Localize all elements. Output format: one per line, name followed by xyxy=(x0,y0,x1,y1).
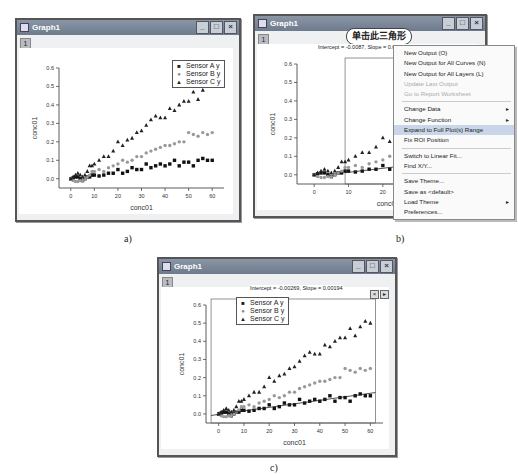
menu-item[interactable]: New Output for All Curves (N) xyxy=(394,58,514,68)
plot-area[interactable]: 0.00.10.20.30.40.50.60102030405060conc01… xyxy=(19,48,233,214)
svg-text:0.1: 0.1 xyxy=(284,153,292,159)
svg-text:0.3: 0.3 xyxy=(193,356,201,362)
caption-c: c) xyxy=(270,462,278,473)
window-titlebar[interactable]: Graph1 _ □ × xyxy=(159,259,395,274)
submenu-arrow-icon: ▸ xyxy=(506,104,509,114)
svg-text:60: 60 xyxy=(209,193,215,199)
window-titlebar[interactable]: Graph1 _ □ × xyxy=(17,20,239,35)
square-icon: ■ xyxy=(240,299,246,307)
caption-a: a) xyxy=(124,233,132,244)
menu-separator xyxy=(402,101,511,102)
legend-label: Sensor C y xyxy=(250,315,285,323)
menu-item[interactable]: Save as <default> xyxy=(394,187,514,197)
menu-item[interactable]: Fix ROI Position xyxy=(394,135,514,145)
svg-text:50: 50 xyxy=(186,193,192,199)
legend[interactable]: ■Sensor A y ●Sensor B y ▲Sensor C y xyxy=(172,60,225,88)
svg-text:conc01: conc01 xyxy=(269,113,276,136)
legend-item: ▲Sensor C y xyxy=(240,315,285,323)
svg-text:10: 10 xyxy=(345,189,351,195)
svg-text:0.5: 0.5 xyxy=(284,79,292,85)
triangle-icon: ▲ xyxy=(240,315,246,323)
roi-menu-triangle-button[interactable]: ▸ xyxy=(380,290,389,299)
roi-fit-label: Intercept = -0.00269, Slope = 0.00194 xyxy=(250,285,343,291)
graph-window-a: Graph1 _ □ × 1 0.00.10.20.30.40.50.60102… xyxy=(15,18,241,222)
circle-icon: ● xyxy=(176,70,182,78)
menu-item[interactable]: Preferences... xyxy=(394,207,514,217)
legend-label: Sensor B y xyxy=(250,307,284,315)
menu-item: Update Last Output xyxy=(394,79,514,89)
svg-text:0.6: 0.6 xyxy=(193,302,201,308)
svg-text:30: 30 xyxy=(291,428,297,434)
svg-text:conc01: conc01 xyxy=(178,353,185,376)
close-button[interactable]: × xyxy=(224,21,237,34)
svg-text:0.2: 0.2 xyxy=(193,375,201,381)
callout-bubble: 单击此三角形 xyxy=(346,28,412,45)
menu-item[interactable]: Save Theme... xyxy=(394,176,514,186)
menu-item[interactable]: New Output for All Layers (L) xyxy=(394,69,514,79)
roi-close-button[interactable]: × xyxy=(370,290,379,299)
minimize-button[interactable]: _ xyxy=(352,260,365,273)
svg-text:0.1: 0.1 xyxy=(46,157,54,163)
legend-label: Sensor A y xyxy=(250,299,283,307)
svg-text:0: 0 xyxy=(313,189,316,195)
menu-item[interactable]: Find X/Y... xyxy=(394,161,514,171)
menu-item[interactable]: Load Theme▸ xyxy=(394,197,514,207)
legend-item: ■Sensor A y xyxy=(176,62,221,70)
maximize-button[interactable]: □ xyxy=(456,17,469,30)
svg-text:0: 0 xyxy=(69,193,72,199)
svg-text:50: 50 xyxy=(342,428,348,434)
legend-label: Sensor A y xyxy=(186,62,219,70)
svg-text:0.3: 0.3 xyxy=(284,116,292,122)
legend[interactable]: ■Sensor A y ●Sensor B y ▲Sensor C y xyxy=(236,297,289,325)
svg-text:0.5: 0.5 xyxy=(46,83,54,89)
svg-text:20: 20 xyxy=(380,189,386,195)
legend-label: Sensor C y xyxy=(186,78,221,86)
svg-text:0.0: 0.0 xyxy=(284,172,292,178)
legend-item: ■Sensor A y xyxy=(240,299,285,307)
close-button[interactable]: × xyxy=(380,260,393,273)
svg-text:30: 30 xyxy=(138,193,144,199)
svg-text:0.4: 0.4 xyxy=(193,338,201,344)
svg-text:0: 0 xyxy=(217,428,220,434)
minimize-button[interactable]: _ xyxy=(196,21,209,34)
roi-buttons: × ▸ xyxy=(370,290,389,299)
svg-text:0.6: 0.6 xyxy=(284,61,292,67)
menu-separator xyxy=(402,148,511,149)
svg-text:10: 10 xyxy=(91,193,97,199)
svg-text:conc01: conc01 xyxy=(130,204,153,211)
context-menu: New Output (O)New Output for All Curves … xyxy=(393,45,515,220)
legend-item: ●Sensor B y xyxy=(240,307,285,315)
close-button[interactable]: × xyxy=(470,17,483,30)
submenu-arrow-icon: ▸ xyxy=(506,197,509,207)
menu-separator xyxy=(402,173,511,174)
svg-text:0.4: 0.4 xyxy=(284,98,292,104)
svg-text:0.0: 0.0 xyxy=(193,411,201,417)
svg-text:conc01: conc01 xyxy=(31,117,38,140)
window-title: Graph1 xyxy=(32,23,60,32)
graph-window-icon xyxy=(258,19,267,28)
svg-text:0.5: 0.5 xyxy=(193,320,201,326)
svg-text:40: 40 xyxy=(162,193,168,199)
maximize-button[interactable]: □ xyxy=(366,260,379,273)
menu-item[interactable]: Change Function▸ xyxy=(394,115,514,125)
svg-text:0.0: 0.0 xyxy=(46,176,54,182)
menu-item[interactable]: New Output (O) xyxy=(394,48,514,58)
legend-item: ▲Sensor C y xyxy=(176,78,221,86)
plot-area[interactable]: 0.00.10.20.30.40.50.60102030405060conc01… xyxy=(161,287,389,449)
circle-icon: ● xyxy=(240,307,246,315)
graph-window-icon xyxy=(20,23,29,32)
caption-b: b) xyxy=(396,233,404,244)
maximize-button[interactable]: □ xyxy=(210,21,223,34)
svg-text:0.3: 0.3 xyxy=(46,120,54,126)
minimize-button[interactable]: _ xyxy=(442,17,455,30)
menu-item[interactable]: Change Data▸ xyxy=(394,104,514,114)
svg-text:0.6: 0.6 xyxy=(46,65,54,71)
legend-item: ●Sensor B y xyxy=(176,70,221,78)
window-title: Graph1 xyxy=(270,19,298,28)
svg-text:0.2: 0.2 xyxy=(284,135,292,141)
window-title: Graph1 xyxy=(174,262,202,271)
menu-item[interactable]: Expand to Full Plot(s) Range xyxy=(394,125,514,135)
menu-item[interactable]: Switch to Linear Fit... xyxy=(394,151,514,161)
svg-text:40: 40 xyxy=(317,428,323,434)
svg-text:60: 60 xyxy=(367,428,373,434)
